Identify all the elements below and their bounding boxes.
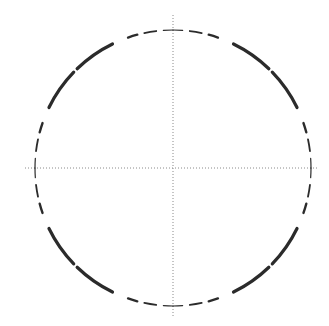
diagram-canvas (0, 0, 329, 326)
circle-dash-segment (36, 139, 38, 151)
circle-dash-segment (144, 31, 156, 33)
circle-dash-segment (303, 123, 306, 132)
circle-dash-segment (36, 185, 38, 197)
circle-dash-segment (190, 31, 202, 33)
circle-arc-segment (77, 267, 112, 292)
circle-dash-segment (308, 139, 310, 151)
circle-dash-segment (40, 123, 43, 132)
circle-arc-segment (49, 72, 74, 107)
circle-dash-segment (128, 35, 137, 38)
circle-dash-segment (190, 303, 202, 305)
circle-dash-segment (209, 298, 218, 301)
circle-dash-segment (303, 204, 306, 213)
circle-dash-segment (308, 185, 310, 197)
circle-arc-segment (49, 229, 74, 264)
circle-dash-segment (128, 298, 137, 301)
crosshair (25, 15, 318, 318)
circle-arc-segment (234, 44, 269, 69)
circle-arc-segment (234, 267, 269, 292)
circle-dash-segment (209, 35, 218, 38)
segmented-circle-diagram (0, 0, 329, 326)
circle-arc-segment (272, 72, 297, 107)
circle-arc-segment (272, 229, 297, 264)
circle-arc-segment (77, 44, 112, 69)
circle-dash-segment (144, 303, 156, 305)
circle-dash-segment (40, 204, 43, 213)
